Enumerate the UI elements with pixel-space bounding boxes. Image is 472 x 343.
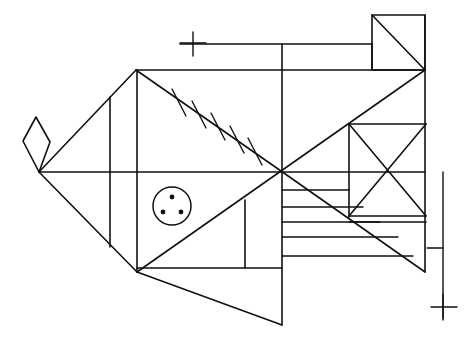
body-stripes-group — [282, 190, 413, 256]
lower-fin-diagonal — [137, 272, 282, 325]
dorsal-hatch-diagonal — [136, 70, 281, 171]
top-fin-diagonal — [372, 15, 425, 70]
eye-dot-left — [161, 210, 166, 215]
center-x-lower-left — [137, 171, 281, 272]
eye-outline-circle — [153, 187, 191, 225]
geometric-fish-illustration — [0, 0, 472, 343]
drawing-canvas — [0, 0, 472, 343]
dorsal-hatch-3 — [211, 113, 225, 140]
snout-lower-edge — [39, 172, 137, 272]
snout-upper-edge — [39, 70, 136, 172]
eye-dot-top — [170, 195, 175, 200]
body-horizontals-group — [136, 44, 426, 268]
center-x-upper-right — [281, 70, 425, 171]
dorsal-hatch-4 — [230, 126, 244, 153]
body-verticals-group — [110, 15, 425, 325]
dorsal-hatch-5 — [248, 138, 262, 165]
dorsal-hatch-2 — [192, 101, 206, 128]
fish-eye — [153, 187, 191, 225]
diagonals-group — [136, 15, 426, 325]
eye-dot-right — [179, 210, 184, 215]
registration-marks-group — [180, 32, 457, 320]
